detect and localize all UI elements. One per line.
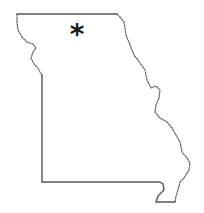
south-border	[42, 182, 175, 202]
east-river-border	[117, 14, 190, 202]
northwest-river-border	[17, 14, 42, 75]
state-outline	[0, 0, 204, 213]
state-map: *	[0, 0, 204, 213]
asterisk-icon: *	[67, 22, 87, 48]
